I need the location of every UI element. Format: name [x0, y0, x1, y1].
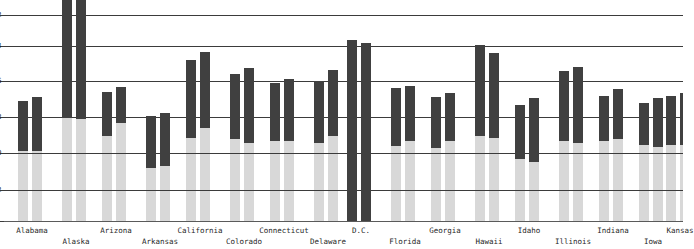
x-axis-label-illinois: Illinois [555, 237, 591, 246]
y-axis-tick-label: 12 [0, 187, 1, 194]
x-axis-label-iowa: Iowa [644, 237, 662, 246]
x-axis-label-california: California [177, 226, 222, 235]
bar-range-segment[interactable] [160, 113, 170, 166]
bar-range-segment[interactable] [431, 97, 441, 148]
bar-background-segment [431, 148, 441, 221]
bar-background-segment [475, 136, 485, 221]
bar-background-segment [391, 146, 401, 221]
bar-range-segment[interactable] [347, 40, 357, 221]
bar-range-segment[interactable] [599, 96, 609, 141]
plot-area: 5244362820124 [0, 0, 683, 222]
bar-background-segment [18, 151, 28, 221]
bar-range-segment[interactable] [230, 74, 240, 139]
bar-background-segment [32, 151, 42, 221]
bar-range-segment[interactable] [18, 101, 28, 151]
bar-background-segment [529, 162, 539, 221]
bar-range-segment[interactable] [653, 98, 663, 147]
gridline [4, 153, 683, 154]
y-axis-tick-label: 36 [0, 78, 1, 85]
bar-background-segment [639, 145, 649, 221]
x-axis-label-kansas: Kansas [666, 226, 693, 235]
x-axis-label-idaho: Idaho [518, 226, 541, 235]
bar-background-segment [653, 147, 663, 221]
bar-range-segment[interactable] [186, 60, 196, 138]
x-axis-label-arizona: Arizona [100, 226, 132, 235]
gridline [4, 46, 683, 47]
bar-background-segment [613, 139, 623, 221]
x-axis-label-georgia: Georgia [429, 226, 461, 235]
x-axis-label-arkansas: Arkansas [142, 237, 178, 246]
x-axis-label-colorado: Colorado [226, 237, 262, 246]
y-axis-tick-label: 44 [0, 43, 1, 50]
bar-range-segment[interactable] [244, 68, 254, 143]
bar-background-segment [573, 143, 583, 221]
bar-range-segment[interactable] [529, 98, 539, 162]
bar-background-segment [230, 139, 240, 221]
bar-background-segment [102, 136, 112, 221]
bar-range-segment[interactable] [102, 92, 112, 136]
bar-background-segment [62, 118, 72, 221]
bar-range-segment[interactable] [666, 96, 676, 145]
bar-range-segment[interactable] [445, 93, 455, 141]
bar-range-segment[interactable] [200, 52, 210, 128]
x-axis-label-indiana: Indiana [597, 226, 629, 235]
bar-range-segment[interactable] [680, 93, 683, 145]
bar-background-segment [116, 123, 126, 221]
x-axis-label-d-c: D.C. [352, 226, 370, 235]
bar-range-segment[interactable] [573, 67, 583, 143]
bar-range-segment[interactable] [559, 71, 569, 141]
bar-background-segment [160, 166, 170, 221]
bar-range-segment[interactable] [489, 53, 499, 138]
bar-range-segment[interactable] [405, 86, 415, 141]
x-axis-label-alaska: Alaska [62, 237, 89, 246]
x-axis-label-hawaii: Hawaii [475, 237, 502, 246]
y-axis-tick-label: 20 [0, 150, 1, 157]
bar-range-segment[interactable] [62, 0, 72, 118]
gridline [4, 15, 683, 16]
bar-range-segment[interactable] [613, 89, 623, 139]
x-axis-labels: AlabamaAlaskaArizonaArkansasCaliforniaCo… [0, 222, 683, 249]
bar-range-segment[interactable] [76, 0, 86, 119]
bar-range-segment[interactable] [328, 70, 338, 136]
bar-background-segment [489, 138, 499, 221]
bar-background-segment [328, 136, 338, 221]
x-axis-label-connecticut: Connecticut [259, 226, 309, 235]
bar-background-segment [244, 143, 254, 221]
bar-range-segment[interactable] [146, 116, 156, 168]
bar-background-segment [186, 138, 196, 221]
x-axis-label-alabama: Alabama [16, 226, 48, 235]
bar-range-segment[interactable] [116, 87, 126, 123]
bar-range-segment[interactable] [639, 103, 649, 145]
x-axis-label-florida: Florida [389, 237, 421, 246]
bar-range-segment[interactable] [515, 105, 525, 159]
bar-background-segment [666, 145, 676, 221]
y-axis-tick-label: 52 [0, 12, 1, 19]
bar-range-segment[interactable] [32, 97, 42, 151]
bar-range-segment[interactable] [475, 45, 485, 136]
bar-background-segment [200, 128, 210, 221]
bar-range-segment[interactable] [361, 43, 371, 221]
bar-range-segment[interactable] [391, 88, 401, 146]
bar-background-segment [76, 119, 86, 221]
bar-range-segment[interactable] [270, 83, 280, 141]
bar-range-segment[interactable] [314, 81, 324, 143]
y-axis-tick-label: 28 [0, 114, 1, 121]
x-axis-label-delaware: Delaware [310, 237, 346, 246]
bar-background-segment [146, 168, 156, 221]
bar-range-segment[interactable] [284, 79, 294, 141]
bar-background-segment [680, 145, 683, 221]
gridline [4, 190, 683, 191]
bar-background-segment [314, 143, 324, 221]
